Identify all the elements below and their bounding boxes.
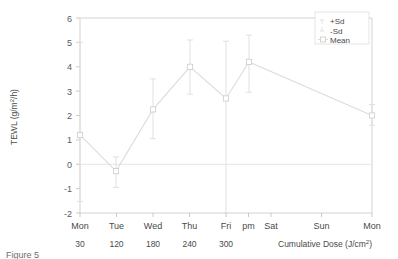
data-point-marker <box>369 113 374 118</box>
cat-label: Mon <box>363 221 381 231</box>
data-point-marker <box>77 132 82 137</box>
figure-container: 6 5 4 3 2 1 0 -1 -2 TEWL (g/m2/h) <box>0 0 398 259</box>
y-axis-title: TEWL (g/m2/h) <box>9 89 19 145</box>
dose-label: 180 <box>146 239 160 249</box>
cat-label: Sat <box>264 221 278 231</box>
data-point-marker <box>187 64 192 69</box>
legend-label: +Sd <box>330 17 344 26</box>
y-tick-label: 2 <box>67 111 72 121</box>
cat-label: Sun <box>313 221 329 231</box>
x-axis-category-labels: Mon Tue Wed Thu Fri pm Sat Sun Mon <box>71 221 381 231</box>
y-tick-label: -2 <box>64 209 72 219</box>
y-axis-ticks <box>76 18 80 213</box>
y-tick-label: 1 <box>67 135 72 145</box>
y-tick-label: 4 <box>67 62 72 72</box>
data-point-marker <box>246 59 251 64</box>
y-tick-label: -1 <box>64 184 72 194</box>
data-point-marker <box>113 169 118 174</box>
legend-label: Mean <box>330 36 350 45</box>
legend-label: -Sd <box>330 27 342 36</box>
y-tick-label: 6 <box>67 14 72 24</box>
cat-label: Thu <box>182 221 198 231</box>
cat-label: Wed <box>144 221 162 231</box>
error-bars-and-markers <box>77 35 375 213</box>
x-axis-dose-labels: 30 120 180 240 300 <box>75 239 233 249</box>
y-tick-label: 3 <box>67 87 72 97</box>
dose-label: 300 <box>219 239 233 249</box>
y-tick-label: 5 <box>67 38 72 48</box>
tewl-line-chart: 6 5 4 3 2 1 0 -1 -2 TEWL (g/m2/h) <box>0 0 398 259</box>
cat-label: Tue <box>109 221 124 231</box>
x-axis-title: Cumulative Dose (J/cm2) <box>278 239 372 249</box>
y-axis-tick-labels: 6 5 4 3 2 1 0 -1 -2 <box>64 14 72 219</box>
cat-label: Fri <box>221 221 232 231</box>
data-point-marker <box>150 107 155 112</box>
x-axis-ticks <box>80 213 372 217</box>
dose-label: 240 <box>182 239 196 249</box>
dose-label: 30 <box>75 239 85 249</box>
figure-caption: Figure 5 <box>6 250 39 259</box>
y-tick-label: 0 <box>67 160 72 170</box>
cat-label: pm <box>242 221 255 231</box>
legend: +Sd -Sd Mean <box>315 12 369 45</box>
dose-label: 120 <box>109 239 123 249</box>
cat-label: Mon <box>71 221 89 231</box>
data-point-marker <box>223 96 228 101</box>
